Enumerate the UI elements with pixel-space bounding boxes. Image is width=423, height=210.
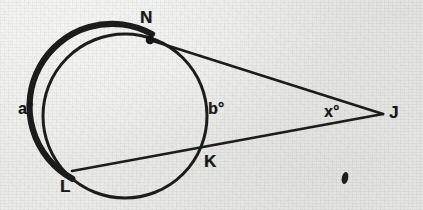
- point-label-J: J: [389, 104, 398, 121]
- point-label-K: K: [204, 153, 216, 170]
- ink-blot-mark: [341, 171, 350, 184]
- point-dot-N: [146, 36, 155, 45]
- point-label-N: N: [140, 9, 152, 26]
- point-label-L: L: [60, 178, 70, 195]
- geometry-figure: N L K J a° b° x°: [0, 0, 423, 210]
- segment-LJ: [72, 114, 383, 171]
- angle-label-b: b°: [208, 101, 224, 117]
- angle-label-a: a°: [18, 101, 33, 117]
- emphasized-arc-L-to-N: [30, 24, 152, 179]
- segment-NJ: [150, 40, 383, 114]
- angle-label-x: x°: [324, 104, 339, 120]
